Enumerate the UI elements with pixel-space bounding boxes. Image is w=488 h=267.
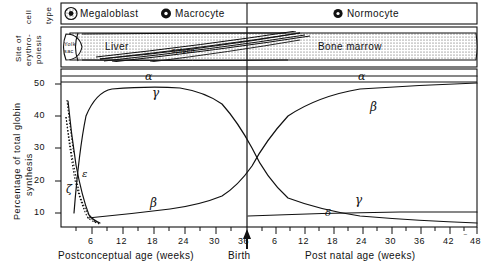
region-label-yolk-sac-line2: sac (64, 48, 74, 54)
site-axis-label-line2: erythro- (24, 34, 33, 66)
curve-label-alpha-prenatal: α (145, 70, 153, 83)
y-axis-label-line2: synthesis (24, 153, 34, 196)
x-tick-pre-30: 30 (209, 236, 220, 246)
x-tick-post-42: 42 (443, 236, 454, 246)
x-tick-post-30: 30 (385, 236, 396, 246)
curve-label-delta: δ (325, 207, 331, 218)
curve-label-beta-postnatal: β (370, 100, 377, 114)
curve-label-epsilon: ε (82, 168, 88, 179)
x-tick-post-36: 36 (414, 236, 425, 246)
x-tick-pre-6: 6 (88, 236, 93, 246)
x-axis-title-prenatal: Postconceptual age (weeks) (58, 250, 194, 261)
y-tick-50: 50 (34, 78, 45, 88)
curve-label-beta-prenatal: β (150, 196, 157, 210)
y-axis-label-line1: Percentage of total globin (12, 102, 22, 220)
x-tick-pre-36: 36 (238, 236, 249, 246)
megaloblast-icon (65, 8, 77, 20)
curve-label-alpha-postnatal: α (358, 70, 366, 83)
region-label-spleen: spleen (172, 47, 195, 54)
y-tick-10: 10 (34, 207, 45, 217)
cell-type-axis-label-line2: type (44, 6, 53, 24)
curve-beta (88, 83, 477, 218)
legend-label-macrocyte: Macrocyte (175, 8, 225, 19)
x-tick-post-18: 18 (327, 236, 338, 246)
x-axis-title-postnatal: Post natal age (weeks) (305, 250, 416, 261)
x-tick-pre-12: 12 (116, 236, 127, 246)
x-tick-post-12: 12 (298, 236, 309, 246)
x-tick-tilde-mark: ‾ (464, 233, 467, 242)
birth-label: Birth (228, 250, 251, 261)
region-label-yolk-sac-line1: Yolk (64, 41, 76, 47)
x-tick-post-6: 6 (272, 236, 277, 246)
region-label-liver: Liver (105, 41, 129, 52)
curve-label-gamma-prenatal: γ (152, 86, 160, 100)
curve-delta (248, 212, 477, 216)
macrocyte-icon (161, 9, 171, 19)
legend-label-normocyte: Normocyte (347, 8, 399, 19)
hemoglobin-switching-figure: Site of erythro- poiesis cell type Perce… (0, 0, 488, 267)
x-tick-post-48: 48 (470, 236, 481, 246)
normocyte-icon (333, 9, 342, 18)
x-axis-ticks (76, 227, 477, 234)
curve-gamma (74, 87, 477, 223)
y-tick-20: 20 (34, 175, 45, 185)
y-tick-40: 40 (34, 110, 45, 120)
x-tick-pre-18: 18 (147, 236, 158, 246)
x-tick-pre-24: 24 (178, 236, 189, 246)
y-axis-ticks (55, 84, 61, 213)
y-tick-30: 30 (34, 142, 45, 152)
site-axis-label-line1: Site of (14, 35, 23, 62)
curve-label-zeta: ζ (66, 183, 72, 196)
region-label-bone-marrow: Bone marrow (318, 41, 382, 52)
x-tick-post-24: 24 (356, 236, 367, 246)
site-axis-label-line3: poiesis (34, 35, 43, 64)
legend-label-megaloblast: Megaloblast (80, 8, 138, 19)
curve-label-gamma-postnatal: γ (355, 193, 363, 207)
cell-type-axis-label-line1: cell (24, 10, 33, 24)
